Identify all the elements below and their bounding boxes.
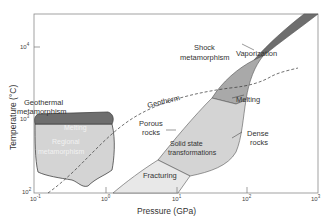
shock-melting-label: Melting <box>236 95 260 104</box>
y-tick-10-2: 102 <box>22 187 32 195</box>
diagram-canvas: Geothermal metamorphism Melting Regional… <box>0 0 332 222</box>
regional-label-line2: metamorphism <box>38 148 84 156</box>
geothermal-label-line1: Geothermal <box>24 98 64 107</box>
solid-state-label-line1: Solid state <box>170 140 203 147</box>
solid-state-label-line2: transformations <box>168 149 217 156</box>
geo-melting-label: Melting <box>64 124 87 132</box>
x-tick-10-3: 103 <box>311 194 321 202</box>
fracturing-label: Fracturing <box>143 171 177 180</box>
x-tick-10-neg1: 10-1 <box>30 194 41 202</box>
shock-label-line2: metamorphism <box>180 53 230 62</box>
x-axis-title: Pressure (GPa) <box>137 206 196 216</box>
porous-label-line2: rocks <box>142 128 160 137</box>
regional-label-line1: Regional <box>52 138 80 146</box>
porous-label-line1: Porous <box>139 119 163 128</box>
y-axis-title: Temperature (°C) <box>8 85 18 150</box>
dense-label-line2: rocks <box>250 138 268 147</box>
x-tick-10-0: 100 <box>101 194 111 202</box>
y-tick-10-4: 104 <box>20 42 30 50</box>
x-tick-10-1: 101 <box>172 194 182 202</box>
dense-label-line1: Dense <box>247 129 269 138</box>
x-tick-10-2: 102 <box>242 194 252 202</box>
vaporization-label: Vaporization <box>236 49 277 58</box>
shock-label-line1: Shock <box>194 43 215 52</box>
y-tick-10-3: 103 <box>20 114 30 122</box>
geothermal-label-line2: metamorphism <box>17 107 67 116</box>
